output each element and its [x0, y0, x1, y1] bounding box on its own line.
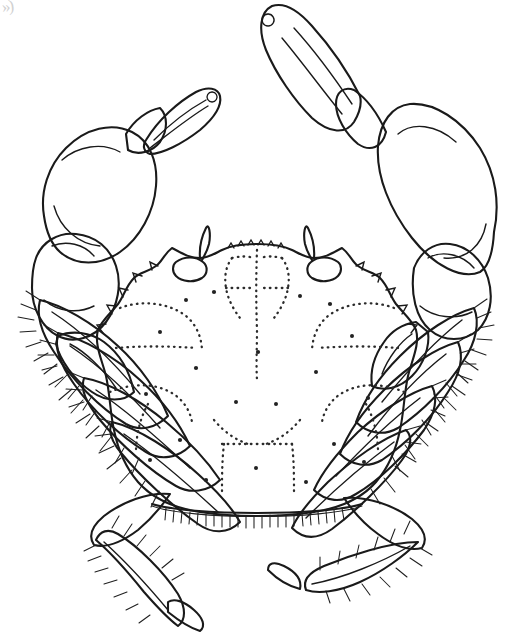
crab-dorsal-view-drawing: .ink { fill:none; stroke:#1a1a1a; stroke…	[0, 0, 514, 641]
scan-artifact-mark: »)	[1, 0, 13, 15]
illustration-plate: »)	[0, 0, 514, 641]
